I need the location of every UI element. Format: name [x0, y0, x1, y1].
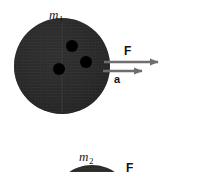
interior-dot-left — [53, 63, 65, 75]
mass-m2-disk-texture — [52, 165, 132, 172]
mass-label-m2-subscript: 2 — [89, 156, 94, 166]
mass-label-m1-base: m — [49, 7, 58, 22]
force-label-m1: F — [124, 45, 131, 57]
physics-figure: m1 F a m2 F — [0, 0, 200, 172]
mass-label-m1-subscript: 1 — [59, 14, 64, 24]
interior-dot-top — [66, 40, 78, 52]
figure-canvas — [0, 0, 200, 172]
top-panel-group — [14, 18, 158, 114]
mass-label-m1: m1 — [49, 8, 63, 24]
bottom-panel-group — [52, 165, 132, 172]
acceleration-label-m1: a — [114, 74, 120, 85]
interior-dot-right — [80, 56, 92, 68]
force-label-m2: F — [126, 162, 133, 172]
mass-label-m2-base: m — [79, 149, 88, 164]
mass-label-m2: m2 — [79, 150, 93, 166]
